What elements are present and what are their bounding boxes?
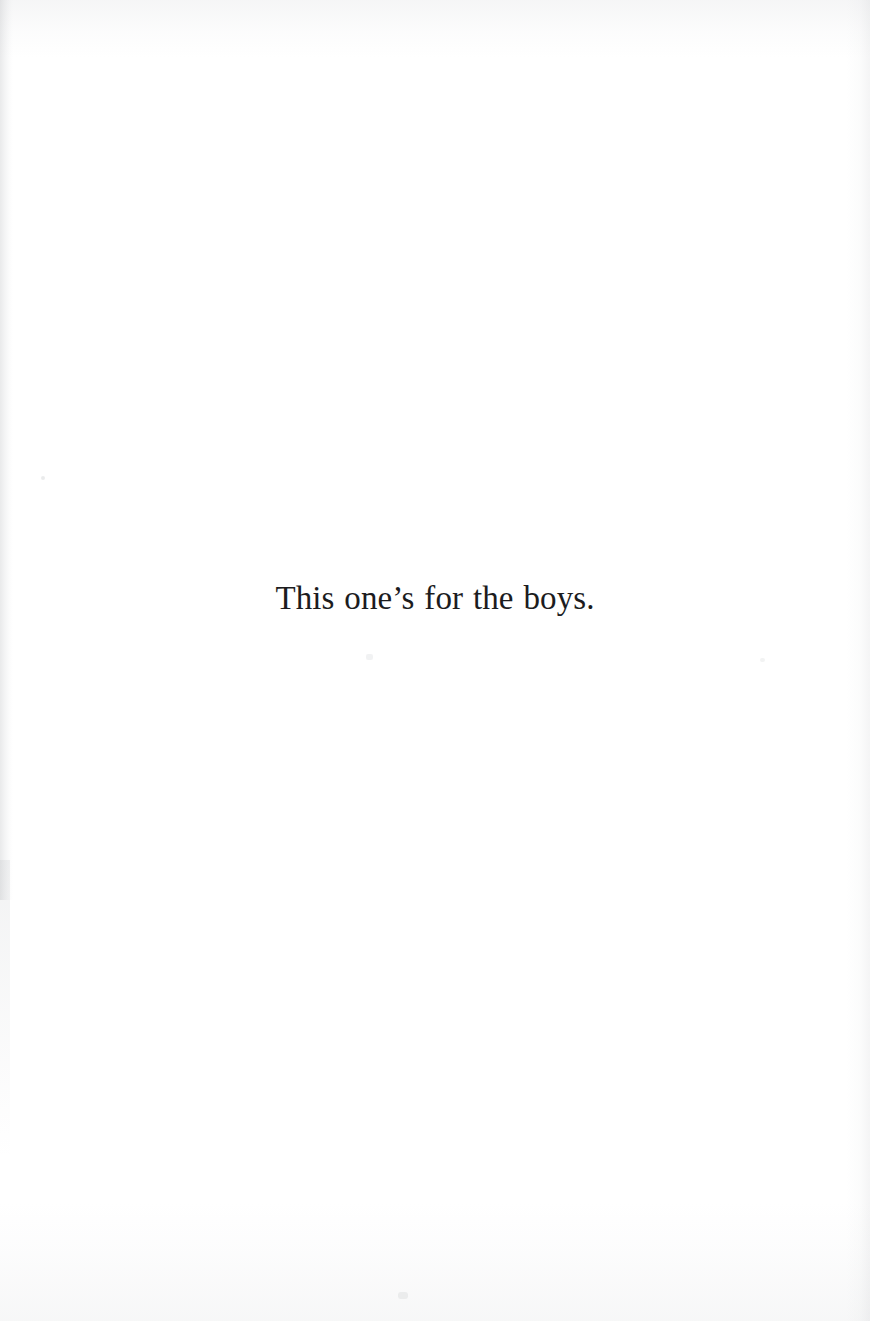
dedication-page: This one’s for the boys. [0,0,870,1321]
scan-speck [398,1292,408,1299]
dedication-block: This one’s for the boys. [0,578,870,619]
scan-artifact-left-gutter-fade [0,860,10,1160]
scan-artifact-bottom-edge [0,1201,870,1321]
scan-speck [41,476,45,480]
scan-speck [366,654,373,660]
scan-artifact-left-gutter [0,0,13,900]
dedication-text: This one’s for the boys. [275,578,594,619]
scan-speck [760,658,765,662]
scan-artifact-right-edge [846,0,870,1321]
scan-artifact-top-edge [0,0,870,58]
